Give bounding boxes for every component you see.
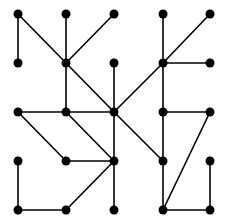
graph-node bbox=[14, 157, 23, 166]
graph-edge bbox=[66, 14, 114, 63]
graph-node bbox=[159, 59, 168, 68]
graph-node bbox=[62, 59, 71, 68]
graph-node bbox=[110, 108, 119, 117]
graph-edge bbox=[163, 14, 210, 63]
graph-edge bbox=[66, 63, 114, 112]
graph-node bbox=[159, 157, 168, 166]
graph-node bbox=[110, 157, 119, 166]
graph-edge bbox=[18, 14, 66, 63]
graph-diagram bbox=[0, 0, 229, 224]
graph-node bbox=[206, 206, 215, 215]
graph-edge bbox=[114, 63, 163, 112]
graph-node bbox=[62, 157, 71, 166]
graph-node bbox=[159, 206, 168, 215]
graph-node bbox=[110, 59, 119, 68]
graph-node bbox=[110, 206, 119, 215]
graph-edge bbox=[18, 112, 66, 161]
graph-node bbox=[110, 10, 119, 19]
graph-node bbox=[62, 10, 71, 19]
graph-edge bbox=[66, 161, 114, 210]
graph-edge bbox=[66, 112, 114, 161]
graph-node bbox=[14, 108, 23, 117]
graph-node bbox=[62, 108, 71, 117]
graph-node bbox=[206, 157, 215, 166]
graph-node bbox=[206, 59, 215, 68]
graph-edge bbox=[114, 112, 163, 161]
graph-edge bbox=[163, 112, 210, 210]
graph-node bbox=[159, 10, 168, 19]
graph-node bbox=[62, 206, 71, 215]
graph-node bbox=[206, 10, 215, 19]
graph-canvas bbox=[0, 0, 229, 224]
graph-node bbox=[159, 108, 168, 117]
graph-node bbox=[206, 108, 215, 117]
graph-node bbox=[14, 206, 23, 215]
graph-node bbox=[14, 59, 23, 68]
graph-node bbox=[14, 10, 23, 19]
